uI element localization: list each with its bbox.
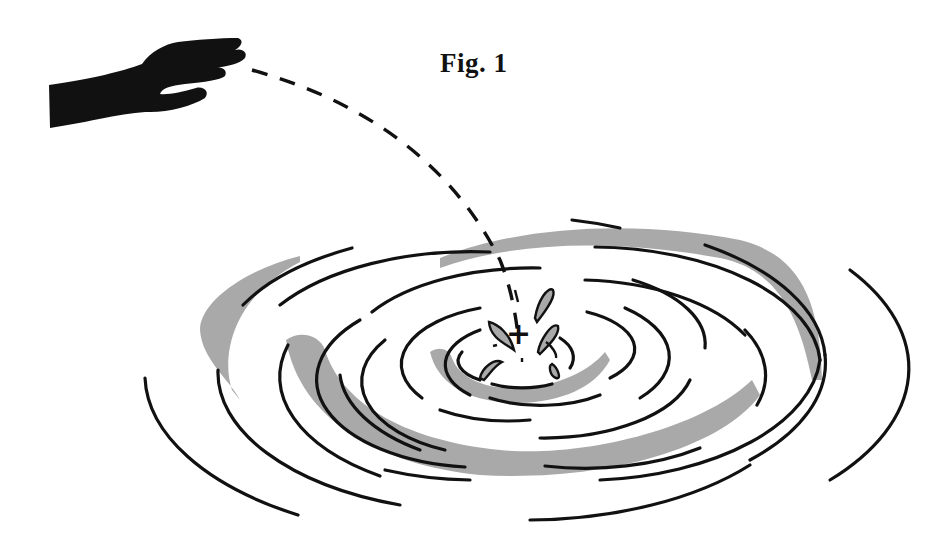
shading	[200, 228, 822, 476]
hand-icon	[49, 38, 246, 128]
ripple-illustration: +	[0, 0, 946, 552]
impact-marker: +	[506, 316, 531, 351]
